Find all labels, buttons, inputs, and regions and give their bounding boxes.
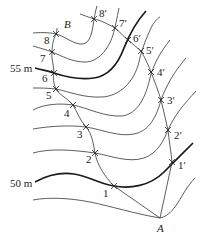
contour-map-diagram: 87654321 8′7′6′5′4′3′2′1′ 55 m 50 m B A — [0, 0, 201, 239]
left-point-label: 8 — [44, 34, 50, 46]
point-B-label: B — [64, 18, 71, 30]
right-route-points: 8′7′6′5′4′3′2′1′ — [91, 7, 186, 171]
left-point-label: 2 — [86, 153, 92, 165]
right-point-label: 7′ — [119, 17, 127, 29]
left-point-label: 6 — [42, 72, 48, 84]
right-point-label: 2′ — [174, 129, 182, 141]
left-point-label: 1 — [103, 187, 109, 199]
point-A-label: A — [156, 222, 164, 234]
right-point-label: 1′ — [178, 159, 186, 171]
contour-55m — [35, 11, 146, 79]
right-point-label: 6′ — [133, 32, 141, 44]
right-point-label: 5′ — [146, 44, 154, 56]
left-point-label: 4 — [64, 107, 70, 119]
right-point-label: 3′ — [167, 94, 175, 106]
left-point-label: 5 — [46, 89, 52, 101]
contour-50m-label: 50 m — [10, 177, 33, 189]
contour-0 — [33, 178, 195, 218]
left-point-1-cross-icon — [53, 31, 59, 37]
right-point-label: 4′ — [157, 66, 165, 78]
right-point-label: 8′ — [99, 7, 107, 19]
right-point-6-cross-icon — [158, 97, 164, 103]
route-lines — [52, 14, 172, 218]
left-point-label: 7 — [40, 52, 46, 64]
contour-55m-label: 55 m — [10, 62, 33, 74]
left-point-label: 3 — [77, 128, 83, 140]
